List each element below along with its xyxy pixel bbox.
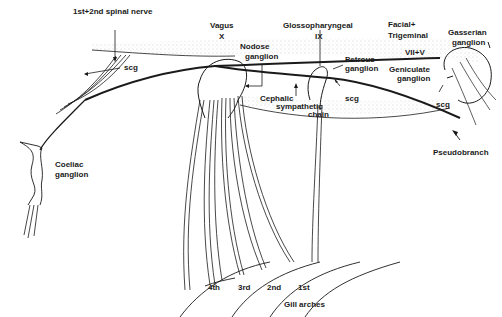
- label-cephalic-3: chain: [308, 110, 329, 119]
- label-petrous-1: Petrous: [345, 55, 375, 64]
- spinal-nerves: [56, 55, 130, 114]
- vagal-branches: [184, 96, 294, 290]
- label-scg-middle: scg: [345, 94, 359, 103]
- label-glossopharyngeal-numeral: IX: [315, 32, 323, 41]
- label-geniculate-2: ganglion: [397, 74, 430, 83]
- label-gill-arch-3: 3rd: [238, 283, 250, 292]
- label-gill-arch-2: 2nd: [267, 283, 281, 292]
- label-pseudobranch: Pseudobranch: [433, 148, 489, 157]
- label-gill-arch-1: 1st: [298, 283, 310, 292]
- label-facial: Facial+: [388, 20, 415, 29]
- label-gill-arch-4: 4th: [208, 283, 220, 292]
- label-gill-arches-caption: Gill arches: [284, 300, 325, 309]
- label-glossopharyngeal: Glossopharyngeal: [283, 21, 353, 30]
- label-gasserian-1: Gasserian: [448, 28, 487, 37]
- label-nodose-2: ganglion: [245, 52, 278, 61]
- label-scg-right: scg: [436, 100, 450, 109]
- label-coeliac-2: ganglion: [55, 170, 88, 179]
- label-petrous-2: ganglion: [345, 64, 378, 73]
- label-vagus-numeral: X: [219, 32, 224, 41]
- label-nodose-1: Nodose: [240, 42, 269, 51]
- label-spinal-nerve: 1st+2nd spinal nerve: [73, 7, 152, 16]
- label-scg-left: scg: [124, 63, 138, 72]
- coeliac-ganglion: [20, 142, 42, 205]
- label-coeliac-1: Coeliac: [55, 160, 83, 169]
- label-gasserian-2: ganglion: [452, 38, 485, 47]
- label-facial-trigeminal-numeral: VII+V: [405, 48, 425, 57]
- label-geniculate-1: Geniculate: [389, 65, 430, 74]
- label-vagus: Vagus: [210, 21, 234, 30]
- label-trigeminal: Trigeminal: [388, 31, 428, 40]
